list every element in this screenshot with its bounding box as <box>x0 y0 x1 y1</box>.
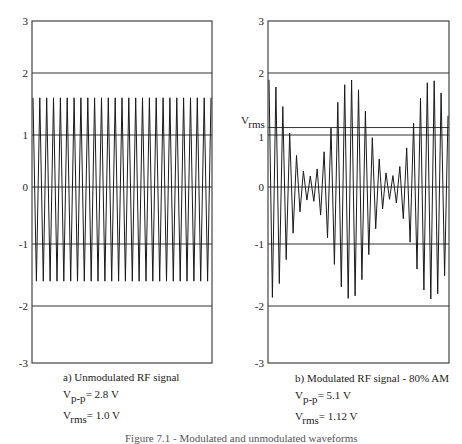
plot-b-title: b) Modulated RF signal - 80% AM <box>295 372 449 384</box>
plot-unmodulated <box>32 21 212 363</box>
ytick-a-m1: -1 <box>14 238 28 250</box>
ytick-a-m2: -2 <box>14 300 28 312</box>
ytick-a-0: 0 <box>14 181 28 193</box>
vrms-line-label: Vrms <box>241 114 265 126</box>
plot-a-vrms: Vrms= 1.0 V <box>63 409 120 421</box>
figure-caption: Figure 7.1 - Modulated and unmodulated w… <box>125 432 357 444</box>
plot-modulated <box>268 21 449 363</box>
ytick-b-1: 1 <box>250 131 264 143</box>
plot-b-vrms: Vrms= 1.12 V <box>295 410 358 422</box>
ytick-a-m3: -3 <box>14 357 28 369</box>
ytick-b-m2: -2 <box>250 300 264 312</box>
ytick-b-2: 2 <box>250 67 264 79</box>
ytick-b-0: 0 <box>250 181 264 193</box>
ytick-b-m1: -1 <box>250 238 264 250</box>
ytick-a-2: 2 <box>14 67 28 79</box>
plot-b-vpp: Vp-p= 5.1 V <box>295 389 351 401</box>
ytick-a-1: 1 <box>14 129 28 141</box>
plot-a-vpp: Vp-p= 2.8 V <box>63 388 119 400</box>
plot-a-title: a) Unmodulated RF signal <box>63 371 179 383</box>
signal-waveform <box>33 98 211 281</box>
ytick-b-3: 3 <box>250 15 264 27</box>
signal-waveform <box>269 80 448 299</box>
ytick-a-3: 3 <box>14 15 28 27</box>
ytick-b-m3: -3 <box>250 357 264 369</box>
